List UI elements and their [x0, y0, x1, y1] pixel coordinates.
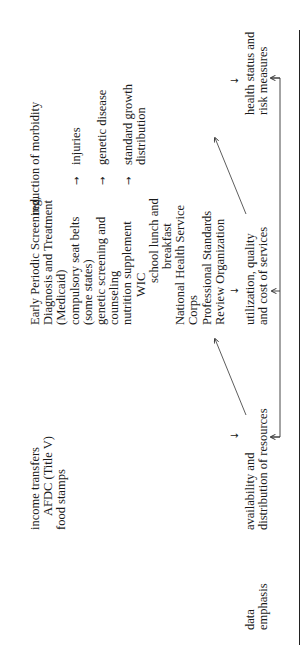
table-bottom-rule [299, 30, 300, 645]
connector-lines [0, 0, 302, 661]
diagonal-arrow-icon [215, 138, 246, 214]
diagonal-arrow-icon [215, 339, 246, 415]
rotated-diagram-page: data emphasis income transfers AFDC (Tit… [0, 0, 302, 661]
